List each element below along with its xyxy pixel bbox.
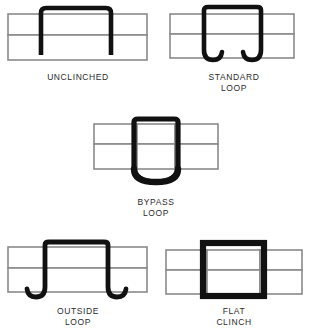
figure-outside-loop — [0, 237, 156, 305]
caption-unclinched: UNCLINCHED — [0, 72, 156, 83]
caption-standard-loop: STANDARD LOOP — [156, 72, 312, 94]
figure-bypass-loop — [78, 114, 234, 192]
caption-flat-clinch: FLAT CLINCH — [156, 306, 312, 328]
flat-clinch-illustration — [156, 237, 312, 305]
material-sheets-outside-loop — [8, 247, 147, 292]
caption-outside-loop: OUTSIDE LOOP — [0, 306, 156, 328]
staple-clinch-diagram-sheet: UNCLINCHED STANDARD LOOP — [0, 0, 312, 330]
material-sheets-unclinched — [8, 14, 147, 60]
figure-standard-loop — [156, 2, 312, 72]
material-sheets-bypass-loop — [94, 124, 218, 169]
figure-unclinched — [0, 2, 156, 72]
material-sheets-flat-clinch — [166, 250, 302, 294]
bypass-loop-illustration — [78, 114, 234, 192]
figure-flat-clinch — [156, 237, 312, 305]
caption-bypass-loop: BYPASS LOOP — [78, 197, 234, 219]
material-sheets-standard-loop — [170, 14, 294, 58]
unclinched-illustration — [0, 2, 156, 72]
outside-loop-illustration — [0, 237, 156, 305]
standard-loop-illustration — [156, 2, 312, 72]
